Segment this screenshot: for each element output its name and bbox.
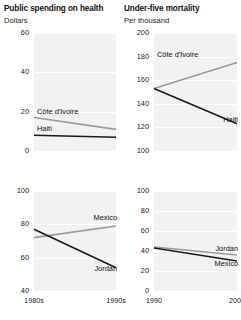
chart-spending-lower: 4060801001980s1990sMexicoJordan	[4, 186, 116, 316]
y-axis-tick-label: 60	[4, 29, 29, 37]
x-axis-tick-label: 2000	[220, 297, 241, 305]
series-line	[154, 63, 237, 89]
panel-subtitle-spending: Dollars	[4, 16, 28, 26]
y-axis-tick-label: 80	[124, 207, 149, 215]
y-axis-tick-label: 140	[124, 100, 149, 108]
y-axis-tick-label: 60	[4, 254, 29, 262]
panel-spending-lower: 4060801001980s1990sMexicoJordan	[4, 186, 116, 316]
y-axis-tick-label: 120	[124, 123, 149, 131]
panel-under-five-mortality: Under-five mortality Per thousand 100120…	[124, 4, 237, 156]
series-label: Côte d'Ivoire	[37, 108, 78, 116]
x-axis-tick-label: 1990	[137, 297, 171, 305]
y-axis-tick-label: 180	[124, 53, 149, 61]
y-axis-tick-label: 100	[124, 147, 149, 155]
y-axis-tick-label: 200	[124, 29, 149, 37]
y-axis-tick-label: 0	[4, 147, 29, 155]
panel-subtitle-mortality: Per thousand	[124, 16, 169, 26]
chart-mortality-lower: 02040608010019902000JordanMexico	[124, 186, 237, 316]
series-label: Côte d'Ivoire	[157, 51, 198, 59]
y-axis-tick-label: 40	[124, 247, 149, 255]
series-label: Mexico	[94, 214, 117, 222]
x-axis-tick-label: 1980s	[17, 297, 51, 305]
panel-mortality-lower: 02040608010019902000JordanMexico	[124, 186, 237, 316]
y-axis-tick-label: 0	[124, 287, 149, 295]
series-lines	[154, 191, 237, 291]
y-axis-tick-label: 80	[4, 220, 29, 228]
y-axis-tick-label: 40	[4, 287, 29, 295]
y-axis-tick-label: 60	[124, 227, 149, 235]
series-line	[34, 135, 116, 137]
series-line	[34, 229, 116, 267]
chart-spending-upper: 0204060Côte d'IvoireHaiti	[4, 28, 116, 156]
series-lines	[34, 191, 116, 291]
series-label: Jordan	[94, 265, 117, 273]
panel-public-spending-on-health: Public spending on health Dollars 020406…	[4, 4, 116, 156]
series-label: Jordan	[215, 245, 238, 253]
panel-title-mortality: Under-five mortality	[124, 4, 199, 14]
figure-panel-grid: Public spending on health Dollars 020406…	[0, 0, 241, 320]
series-label: Mexico	[215, 260, 238, 268]
y-axis-tick-label: 100	[4, 187, 29, 195]
chart-mortality-upper: 100120140160180200Côte d'IvoireHaiti	[124, 28, 237, 156]
series-label: Haiti	[223, 116, 238, 124]
series-label: Haiti	[37, 125, 52, 133]
y-axis-tick-label: 20	[4, 108, 29, 116]
y-axis-tick-label: 20	[124, 267, 149, 275]
y-axis-tick-label: 40	[4, 68, 29, 76]
panel-title-spending: Public spending on health	[4, 4, 103, 14]
y-axis-tick-label: 160	[124, 76, 149, 84]
y-axis-tick-label: 100	[124, 187, 149, 195]
